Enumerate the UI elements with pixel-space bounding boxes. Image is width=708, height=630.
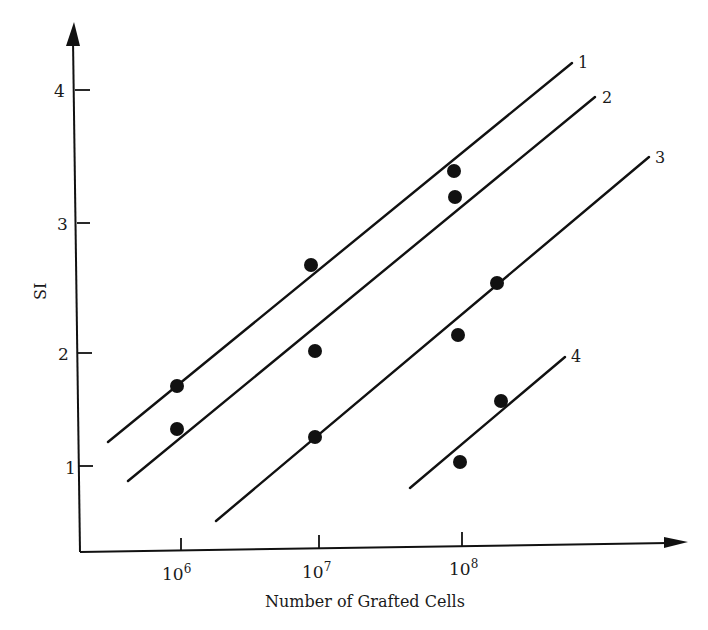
x-axis (80, 537, 688, 552)
line-label-1: 1 (578, 53, 588, 72)
chart-canvas: 4 3 2 1 106 107 108 Number of Grafted Ce… (0, 0, 708, 630)
y-tick-label-4: 4 (54, 81, 65, 101)
y-axis-title: SI (31, 283, 50, 300)
x-ticks: 106 107 108 (162, 532, 478, 584)
y-axis-arrow-icon (66, 22, 80, 46)
data-point (453, 455, 467, 469)
regression-lines (108, 63, 649, 521)
x-tick-label-1e8: 108 (449, 557, 478, 579)
data-point (448, 190, 462, 204)
line-4 (410, 357, 565, 488)
y-tick-label-1: 1 (65, 458, 76, 478)
x-axis-title: Number of Grafted Cells (265, 592, 465, 611)
data-point (304, 258, 318, 272)
y-tick-label-2: 2 (58, 344, 69, 364)
x-tick-label-1e7: 107 (302, 560, 331, 582)
data-point (308, 344, 322, 358)
data-point (494, 394, 508, 408)
line-2 (128, 97, 595, 481)
data-point (308, 430, 322, 444)
data-point (447, 164, 461, 178)
data-point (170, 379, 184, 393)
x-axis-arrow-icon (664, 537, 688, 548)
x-tick-label-1e6: 106 (162, 562, 191, 584)
data-point (490, 276, 504, 290)
line-3 (216, 157, 649, 521)
data-point (170, 422, 184, 436)
data-point (451, 328, 465, 342)
y-tick-label-3: 3 (57, 214, 68, 234)
line-label-2: 2 (602, 88, 612, 107)
line-label-3: 3 (655, 148, 665, 167)
line-label-4: 4 (571, 347, 581, 366)
